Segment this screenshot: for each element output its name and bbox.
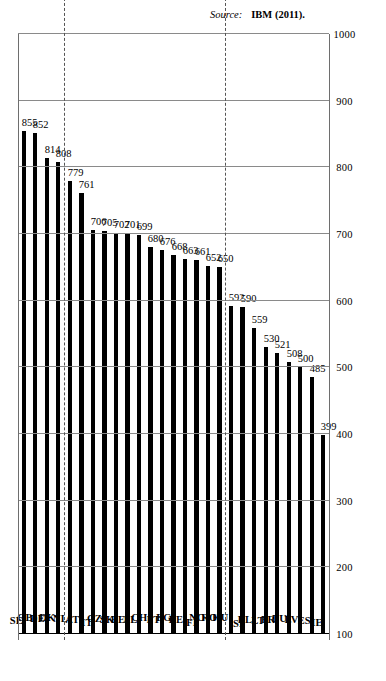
bar-DE xyxy=(45,158,49,634)
bar-LT xyxy=(264,347,268,634)
chart-figure: Source:IBM (2011). 855852814808779761706… xyxy=(0,0,386,681)
bar-CH xyxy=(148,247,152,634)
group-divider-on-schedule xyxy=(64,0,65,640)
plot-area: 8558528148087797617067057027016996806766… xyxy=(18,34,329,634)
bar-value-EL: 559 xyxy=(252,314,268,325)
tick-label-400: 400 xyxy=(336,429,352,440)
tick-label-900: 900 xyxy=(336,95,352,106)
bar-PL xyxy=(137,235,141,634)
bar-value-AT: 761 xyxy=(79,179,95,190)
category-label-BE: BE xyxy=(169,614,183,625)
bar-value-ES: 485 xyxy=(309,363,325,374)
bar-RO xyxy=(217,267,221,634)
tick-label-300: 300 xyxy=(336,495,352,506)
bar-LV xyxy=(298,367,302,634)
tick-label-800: 800 xyxy=(336,162,352,173)
bar-SE xyxy=(22,131,26,634)
bar-value-GB: 852 xyxy=(33,119,49,130)
tick-label-1000: 1000 xyxy=(334,29,356,40)
top-rule xyxy=(18,34,19,640)
category-label-LV: LV xyxy=(285,614,299,625)
tick-label-600: 600 xyxy=(336,295,352,306)
source-value: IBM (2011). xyxy=(251,9,305,20)
category-label-CH: CH xyxy=(132,612,148,623)
tick-label-200: 200 xyxy=(336,562,352,573)
category-label-EL: EL xyxy=(238,614,252,625)
bar-FI xyxy=(194,260,198,634)
bar-BE xyxy=(183,259,187,634)
bar-IT xyxy=(91,230,95,634)
tick-label-100: 100 xyxy=(336,629,352,640)
bar-HU xyxy=(229,306,233,634)
bar-value-PL: 699 xyxy=(137,221,153,232)
source-note: Source:IBM (2011). xyxy=(210,9,305,20)
bar-SI xyxy=(240,307,244,634)
bar-GB xyxy=(33,133,37,634)
bar-EL xyxy=(252,328,256,634)
bar-FR xyxy=(275,353,279,634)
bar-LU xyxy=(287,362,291,634)
bar-BG xyxy=(171,255,175,634)
bottom-rule xyxy=(329,34,330,640)
tick-label-700: 700 xyxy=(336,229,352,240)
group-divider-delayed xyxy=(225,0,226,640)
category-label-ES: ES xyxy=(297,615,310,626)
bar-ES xyxy=(310,377,314,634)
bar-value-NL: 779 xyxy=(67,167,83,178)
category-label-IE: IE xyxy=(311,617,323,628)
category-label-AT: AT xyxy=(66,614,80,625)
bar-IE xyxy=(321,435,325,634)
bar-NO xyxy=(206,266,210,634)
tick-label-500: 500 xyxy=(336,362,352,373)
bar-AT xyxy=(79,193,83,634)
bar-PT xyxy=(160,250,164,634)
